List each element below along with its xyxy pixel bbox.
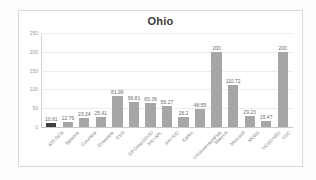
bar[interactable]: 66.81 <box>129 102 139 127</box>
bar[interactable]: 110.72 <box>228 85 238 127</box>
bar-slot: 63.39 <box>142 33 159 127</box>
bar-value-label: 63.39 <box>144 96 157 102</box>
bar[interactable]: 25.41 <box>96 117 106 127</box>
y-axis-tick-label: 250 <box>30 30 38 36</box>
bar-value-label: 200 <box>279 45 287 51</box>
bar-slot: 25.41 <box>93 33 110 127</box>
bar-slot: 12.79 <box>60 33 77 127</box>
bar-value-label: 26.2 <box>179 110 189 116</box>
bar-slot: 66.81 <box>126 33 143 127</box>
bar[interactable]: 10.81 <box>46 123 56 127</box>
bar-value-label: 10.81 <box>45 116 58 122</box>
bar-value-label: 81.96 <box>111 89 124 95</box>
bar-slot: 15.47 <box>258 33 275 127</box>
chart-title: Ohio <box>19 15 302 27</box>
x-label-slot: MaurnA <box>208 129 225 173</box>
x-label-slot: Karlen <box>175 129 192 173</box>
bar-slot: 10.81 <box>43 33 60 127</box>
bar-value-label: 29.23 <box>243 109 256 115</box>
bar-value-label: 15.47 <box>260 114 273 120</box>
bar[interactable]: 200 <box>211 52 221 127</box>
x-label-slot: Microsoft <box>225 129 242 173</box>
bar-value-label: 56.27 <box>161 99 174 105</box>
bar-slot: 56.27 <box>159 33 176 127</box>
plot-area: 050100150200250 10.8112.7923.2425.4181.9… <box>41 33 293 127</box>
bar-value-label: 12.79 <box>62 115 75 121</box>
bar[interactable]: 63.39 <box>145 103 155 127</box>
x-label-slot: Columbia <box>76 129 93 173</box>
y-axis-tick-label: 50 <box>32 105 38 111</box>
bar-value-label: 48.55 <box>194 102 207 108</box>
bar-slot: 81.96 <box>109 33 126 127</box>
bar[interactable]: 15.47 <box>261 121 271 127</box>
bar-value-label: 110.72 <box>226 78 241 84</box>
bar-slot: 48.55 <box>192 33 209 127</box>
bar-value-label: 200 <box>212 45 220 51</box>
bar-value-label: 25.41 <box>95 110 108 116</box>
bar-slot: 200 <box>274 33 291 127</box>
bar-value-label: 66.81 <box>128 95 141 101</box>
x-label-slot: MOBS <box>241 129 258 173</box>
x-label-slot: Ensemble <box>93 129 110 173</box>
bar[interactable]: 23.24 <box>79 118 89 127</box>
x-label-slot: JHU-APL <box>142 129 159 173</box>
x-axis-category-label: ESG <box>115 130 125 140</box>
bar-slot: 26.2 <box>175 33 192 127</box>
bar-slot: 29.23 <box>241 33 258 127</box>
x-label-slot: UVolomentumFlub <box>192 129 209 173</box>
chart-container: Ohio 050100150200250 10.8112.7923.2425.4… <box>18 10 303 167</box>
bar-slot: 23.24 <box>76 33 93 127</box>
bar-value-label: 23.24 <box>78 111 91 117</box>
bar[interactable]: 12.79 <box>63 122 73 127</box>
x-axis-baseline <box>41 127 293 128</box>
bar-slot: 200 <box>208 33 225 127</box>
x-label-slot: JHU-IDD <box>159 129 176 173</box>
x-label-slot: USC <box>274 129 291 173</box>
bar[interactable]: 56.27 <box>162 106 172 127</box>
bar-slot: 110.72 <box>225 33 242 127</box>
x-label-slot: UCSD-NEU <box>258 129 275 173</box>
x-label-slot: Baseline <box>60 129 77 173</box>
y-axis-tick-label: 150 <box>30 68 38 74</box>
x-label-slot: GT-DeepCOVID <box>126 129 143 173</box>
bar[interactable]: 48.55 <box>195 109 205 127</box>
bar[interactable]: 26.2 <box>178 117 188 127</box>
y-axis-tick-label: 100 <box>30 86 38 92</box>
x-label-slot: ESG <box>109 129 126 173</box>
x-label-slot: A3T-GCN <box>43 129 60 173</box>
bar-series: 10.8112.7923.2425.4181.9666.8163.3956.27… <box>41 33 293 127</box>
screenshot-root: Ohio 050100150200250 10.8112.7923.2425.4… <box>0 0 316 180</box>
bar[interactable]: 29.23 <box>245 116 255 127</box>
bar[interactable]: 81.96 <box>112 96 122 127</box>
y-axis-tick-label: 0 <box>35 124 38 130</box>
y-axis-tick-label: 200 <box>30 49 38 55</box>
x-axis-category-label: USC <box>281 130 291 140</box>
x-axis-labels: A3T-GCNBaselineColumbiaEnsembleESGGT-Dee… <box>41 129 293 173</box>
bar[interactable]: 200 <box>278 52 288 127</box>
